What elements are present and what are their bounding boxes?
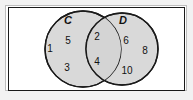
set-label-D: D — [119, 15, 127, 26]
venn-circles-svg — [0, 0, 193, 100]
venn-diagram-figure: C D 1 5 3 2 4 6 8 10 — [0, 0, 193, 100]
element-C-only-1: 1 — [47, 44, 53, 54]
element-D-only-10: 10 — [121, 66, 132, 76]
element-C-only-5: 5 — [65, 36, 71, 46]
set-label-C: C — [64, 15, 72, 26]
element-intersection-4: 4 — [94, 57, 100, 67]
element-intersection-2: 2 — [94, 32, 100, 42]
element-D-only-8: 8 — [142, 46, 148, 56]
element-C-only-3: 3 — [64, 63, 70, 73]
element-D-only-6: 6 — [123, 36, 129, 46]
